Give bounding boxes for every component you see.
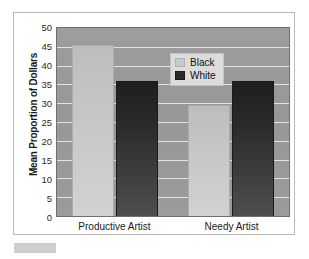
- y-tick-label: 45: [30, 42, 52, 51]
- chart-legend: Black White: [170, 53, 224, 86]
- y-tick-label: 5: [30, 194, 52, 203]
- y-tick-label: 30: [30, 99, 52, 108]
- y-tick-label: 10: [30, 175, 52, 184]
- bar-white-productive-artist: [116, 81, 158, 216]
- y-tick-label: 15: [30, 156, 52, 165]
- x-category-label: Productive Artist: [56, 221, 173, 239]
- bar-white-needy-artist: [232, 81, 274, 216]
- x-axis-category-labels: Productive ArtistNeedy Artist: [56, 221, 290, 239]
- legend-label-black: Black: [190, 57, 214, 68]
- y-tick-label: 35: [30, 80, 52, 89]
- y-axis-tick-labels: 05101520253035404550: [30, 27, 52, 217]
- y-tick-label: 40: [30, 61, 52, 70]
- dark-swatch-icon: [175, 71, 185, 80]
- y-tick-label: 0: [30, 213, 52, 222]
- chart-card: Mean Proportion of Dollars 0510152025303…: [13, 12, 295, 235]
- x-category-label: Needy Artist: [173, 221, 290, 239]
- light-swatch-icon: [175, 58, 185, 67]
- bar-black-productive-artist: [72, 45, 114, 216]
- legend-label-white: White: [190, 70, 216, 81]
- legend-item-black: Black: [175, 56, 216, 69]
- caption-chip: [14, 243, 56, 253]
- y-tick-label: 25: [30, 118, 52, 127]
- legend-item-white: White: [175, 69, 216, 82]
- plot-area: Black White: [56, 27, 290, 217]
- bar-black-needy-artist: [188, 105, 230, 216]
- figure-container: Mean Proportion of Dollars 0510152025303…: [0, 0, 309, 259]
- y-tick-label: 20: [30, 137, 52, 146]
- y-tick-label: 50: [30, 23, 52, 32]
